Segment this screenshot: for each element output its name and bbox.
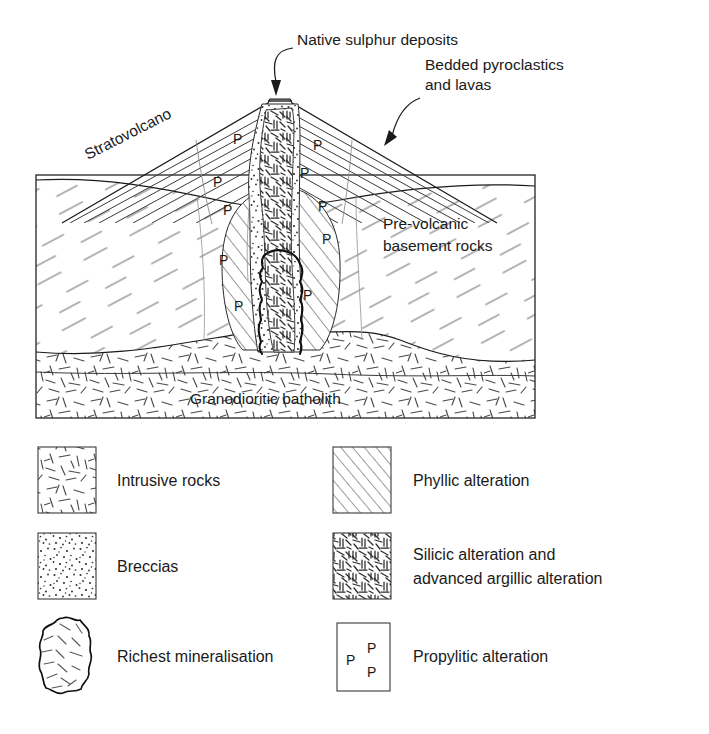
label-bedded-pyroclastics-line2: and lavas <box>425 76 492 93</box>
legend-label-intrusive-rocks: Intrusive rocks <box>117 472 220 489</box>
legend-swatch-propylitic-alteration: P P P <box>337 623 390 691</box>
geological-cross-section-figure: P P P P P P P P P P Native sulp <box>0 0 709 734</box>
legend: Intrusive rocks Breccias <box>38 447 602 693</box>
propylitic-p-mark: P <box>303 287 312 303</box>
legend-item-phyllic-alteration[interactable]: Phyllic alteration <box>333 447 530 513</box>
legend-item-breccias[interactable]: Breccias <box>38 533 178 599</box>
propylitic-p-mark: P <box>233 131 242 147</box>
propylitic-p-mark: P <box>213 174 222 190</box>
legend-swatch-silicic-advanced-argillic <box>333 533 391 599</box>
legend-p-mark-upper-right: P <box>367 640 376 656</box>
label-granodioritic-batholith: Granodioritic batholith <box>190 390 341 407</box>
legend-label-breccias: Breccias <box>117 558 178 575</box>
propylitic-p-mark: P <box>300 165 309 181</box>
label-pre-volcanic-line2: basement rocks <box>383 237 493 254</box>
propylitic-p-mark: P <box>234 298 243 314</box>
cross-section-block: P P P P P P P P P P Native sulp <box>36 31 564 418</box>
label-pre-volcanic-line1: Pre-volcanic <box>383 215 469 232</box>
legend-item-richest-mineralisation[interactable]: Richest mineralisation <box>39 617 273 693</box>
legend-item-intrusive-rocks[interactable]: Intrusive rocks <box>38 447 220 513</box>
propylitic-p-mark: P <box>219 252 228 268</box>
legend-swatch-phyllic-alteration <box>333 447 391 513</box>
legend-swatch-intrusive-rocks <box>38 447 96 513</box>
legend-item-silicic-advanced-argillic[interactable]: Silicic alteration and advanced argillic… <box>333 533 602 599</box>
propylitic-p-mark: P <box>313 137 322 153</box>
propylitic-p-mark: P <box>318 198 327 214</box>
label-stratovolcano: Stratovolcano <box>82 104 174 162</box>
legend-p-mark-left: P <box>346 652 355 668</box>
legend-label-propylitic-alteration: Propylitic alteration <box>413 648 548 665</box>
arrowhead-bedded-pyroclastics <box>384 130 397 146</box>
arrowhead-native-sulphur <box>271 80 281 96</box>
propylitic-p-mark: P <box>223 202 232 218</box>
label-bedded-pyroclastics-line1: Bedded pyroclastics <box>425 56 564 73</box>
legend-item-propylitic-alteration[interactable]: P P P Propylitic alteration <box>337 623 548 691</box>
legend-label-richest-mineralisation: Richest mineralisation <box>117 648 274 665</box>
legend-label-phyllic-alteration: Phyllic alteration <box>413 472 530 489</box>
propylitic-p-mark: P <box>322 231 331 247</box>
label-native-sulphur-deposits: Native sulphur deposits <box>297 31 458 48</box>
legend-label-silicic-line1: Silicic alteration and <box>413 546 555 563</box>
legend-p-mark-lower-right: P <box>367 664 376 680</box>
legend-label-silicic-line2: advanced argillic alteration <box>413 570 602 587</box>
figure-root: P P P P P P P P P P Native sulp <box>0 0 709 734</box>
legend-swatch-breccias <box>38 533 96 599</box>
legend-swatch-richest-mineralisation <box>39 617 91 693</box>
